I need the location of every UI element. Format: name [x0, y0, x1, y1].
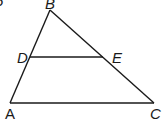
- label-e: E: [112, 49, 123, 66]
- triangle-diagram: 5 B D E A C: [0, 0, 165, 120]
- corner-fragment: 5: [0, 0, 4, 9]
- label-d: D: [17, 49, 28, 66]
- label-a: A: [5, 105, 15, 120]
- label-b: B: [45, 0, 55, 12]
- label-c: C: [150, 105, 161, 120]
